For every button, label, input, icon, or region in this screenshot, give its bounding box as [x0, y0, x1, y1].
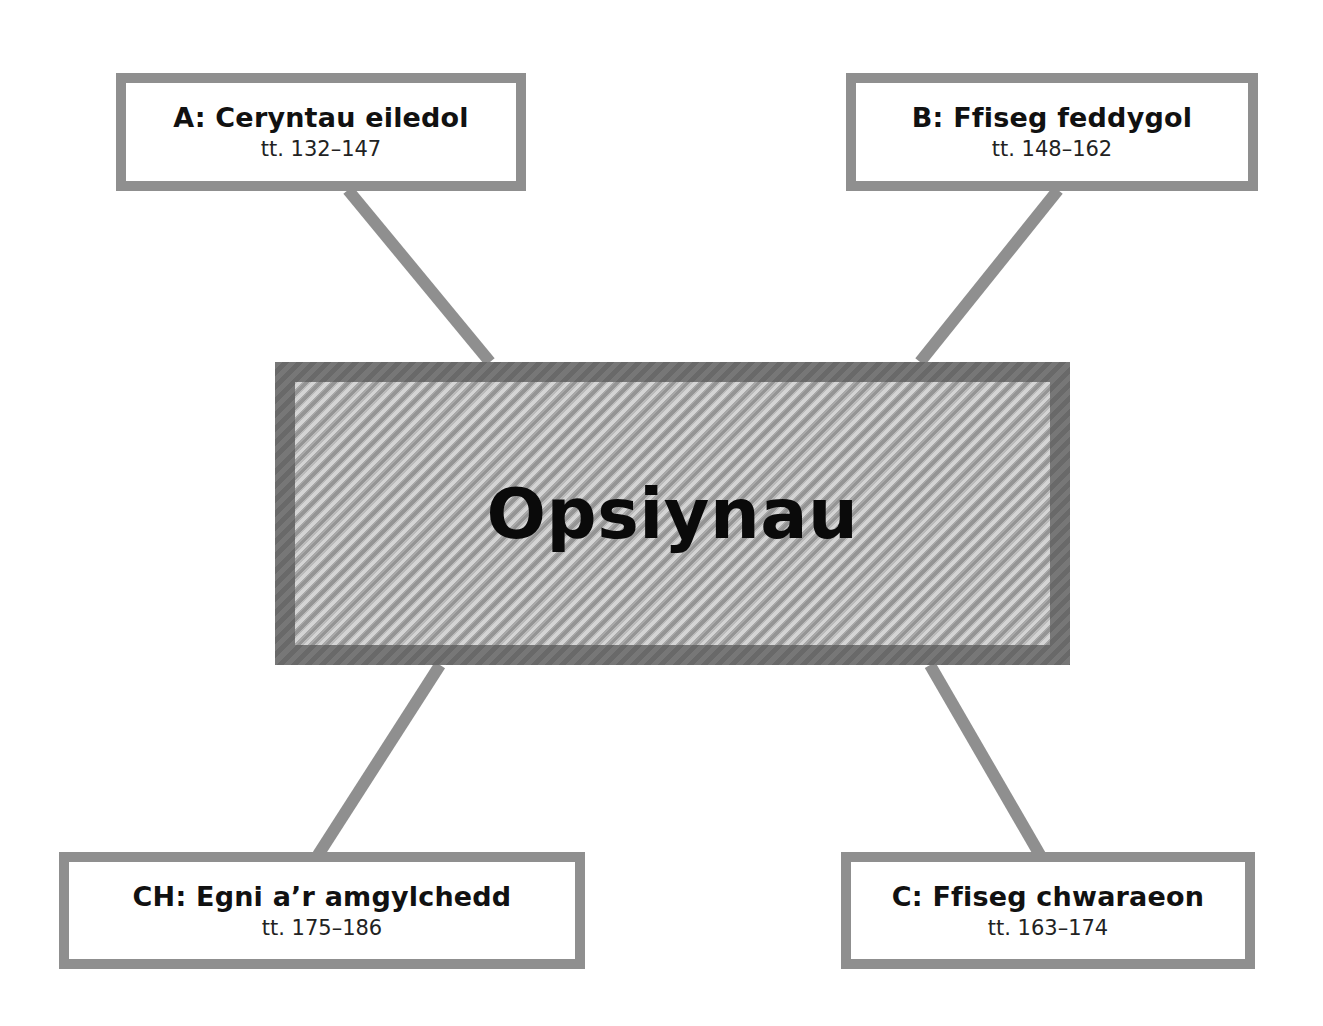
option-pages: tt. 163–174	[988, 914, 1108, 942]
connector-a	[348, 190, 490, 362]
connector-b	[920, 190, 1058, 362]
option-pages: tt. 175–186	[262, 914, 382, 942]
center-box: Opsiynau	[275, 362, 1070, 665]
connector-c	[930, 665, 1040, 855]
option-title: C: Ffiseg chwaraeon	[892, 880, 1204, 914]
option-box-a: A: Ceryntau eiledol tt. 132–147	[116, 73, 526, 191]
option-box-c: C: Ffiseg chwaraeon tt. 163–174	[841, 852, 1255, 969]
option-box-ch: CH: Egni a’r amgylchedd tt. 175–186	[59, 852, 585, 969]
option-pages: tt. 148–162	[992, 135, 1112, 163]
option-title: CH: Egni a’r amgylchedd	[133, 880, 512, 914]
center-title: Opsiynau	[487, 473, 859, 555]
option-box-b: B: Ffiseg feddygol tt. 148–162	[846, 73, 1258, 191]
option-pages: tt. 132–147	[261, 135, 381, 163]
connector-ch	[318, 665, 440, 855]
option-title: A: Ceryntau eiledol	[173, 101, 469, 135]
option-title: B: Ffiseg feddygol	[912, 101, 1192, 135]
